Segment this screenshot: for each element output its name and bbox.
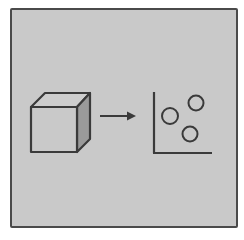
scatter-plot-icon: [153, 92, 212, 153]
diagram-canvas: [0, 0, 244, 240]
cube-front-face: [31, 107, 77, 152]
cube-icon: [31, 93, 90, 152]
data-point: [162, 108, 178, 124]
data-point: [189, 96, 204, 111]
arrow-icon: [100, 112, 136, 121]
data-point: [183, 127, 198, 142]
